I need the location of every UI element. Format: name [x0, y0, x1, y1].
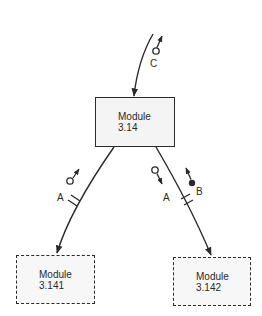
couple-a-left-label: A — [57, 193, 64, 203]
couple-c-icon — [153, 36, 162, 54]
module-3-142: Module 3.142 — [173, 257, 251, 306]
module-3-141: Module 3.141 — [16, 255, 95, 304]
couple-b-label: B — [196, 187, 203, 197]
module-3-141-number: 3.141 — [17, 280, 64, 291]
couple-c-label: C — [150, 59, 157, 69]
module-3-14-number: 3.14 — [96, 122, 137, 133]
module-3-142-number: 3.142 — [174, 282, 221, 293]
couple-b-icon — [186, 168, 195, 186]
module-3-14: Module 3.14 — [95, 97, 175, 147]
module-3-14-title: Module — [96, 111, 151, 122]
structure-chart-diagram: C A A B Module 3.14 Module 3.141 Module … — [0, 0, 262, 316]
module-3-141-title: Module — [17, 269, 72, 280]
couple-a-right-label: A — [163, 193, 170, 203]
module-3-142-title: Module — [174, 271, 229, 282]
call-arrow-to-3-141 — [57, 147, 114, 253]
couple-a-left-icon — [67, 169, 79, 184]
couple-a-right-icon — [152, 167, 162, 184]
